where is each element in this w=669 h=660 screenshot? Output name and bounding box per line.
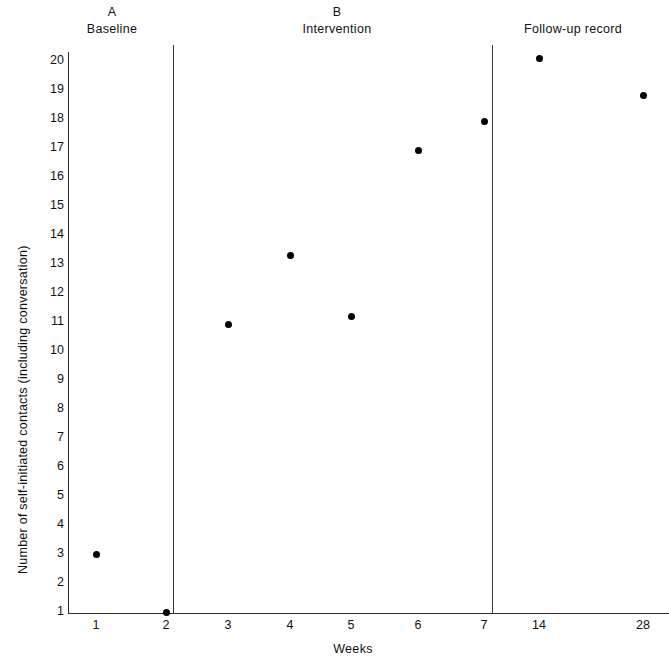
y-tick-label-9: 9 <box>30 372 64 386</box>
y-axis-line <box>68 52 69 614</box>
scatter-chart: A Baseline B Intervention Follow-up reco… <box>0 0 669 660</box>
y-tick-label-20: 20 <box>30 53 64 67</box>
x-axis-line <box>68 613 669 614</box>
y-tick-label-14: 14 <box>30 227 64 241</box>
data-point-week-5 <box>348 313 355 320</box>
data-point-week-7 <box>481 118 488 125</box>
phase-header-baseline: A Baseline <box>42 4 182 38</box>
phase-divider-b-followup <box>492 45 493 613</box>
x-tick-label-28: 28 <box>623 618 663 632</box>
y-tick-label-13: 13 <box>30 256 64 270</box>
y-tick-label-2: 2 <box>30 575 64 589</box>
y-tick-label-3: 3 <box>30 546 64 560</box>
y-tick-label-15: 15 <box>30 198 64 212</box>
y-tick-label-16: 16 <box>30 169 64 183</box>
y-axis-title: Number of self-initiated contacts (inclu… <box>16 245 30 574</box>
y-tick-label-19: 19 <box>30 82 64 96</box>
x-tick-label-6: 6 <box>398 618 438 632</box>
data-point-week-1 <box>93 551 100 558</box>
x-tick-label-1: 1 <box>76 618 116 632</box>
phase-name-baseline: Baseline <box>42 21 182 38</box>
x-tick-label-3: 3 <box>208 618 248 632</box>
data-point-week-6 <box>415 147 422 154</box>
y-tick-label-1: 1 <box>30 604 64 618</box>
y-tick-label-8: 8 <box>30 401 64 415</box>
phase-header-intervention: B Intervention <box>267 4 407 38</box>
phase-name-intervention: Intervention <box>267 21 407 38</box>
y-tick-label-10: 10 <box>30 343 64 357</box>
data-point-week-28 <box>640 92 647 99</box>
y-tick-label-17: 17 <box>30 140 64 154</box>
y-tick-label-5: 5 <box>30 488 64 502</box>
y-tick-label-12: 12 <box>30 285 64 299</box>
phase-letter-a: A <box>42 4 182 21</box>
x-tick-label-4: 4 <box>270 618 310 632</box>
x-tick-label-5: 5 <box>331 618 371 632</box>
data-point-week-3 <box>225 321 232 328</box>
y-tick-label-7: 7 <box>30 430 64 444</box>
y-tick-label-6: 6 <box>30 459 64 473</box>
y-tick-label-4: 4 <box>30 517 64 531</box>
phase-divider-a-b <box>173 45 174 613</box>
x-axis-title: Weeks <box>293 642 413 656</box>
x-tick-label-7: 7 <box>464 618 504 632</box>
data-point-week-14 <box>536 55 543 62</box>
y-tick-label-11: 11 <box>30 314 64 328</box>
data-point-week-4 <box>287 252 294 259</box>
y-tick-label-18: 18 <box>30 111 64 125</box>
data-point-week-2 <box>163 609 170 616</box>
phase-letter-b: B <box>267 4 407 21</box>
x-tick-label-2: 2 <box>146 618 186 632</box>
phase-name-followup: Follow-up record <box>498 21 648 38</box>
x-tick-label-14: 14 <box>519 618 559 632</box>
phase-header-followup: Follow-up record <box>498 21 648 38</box>
